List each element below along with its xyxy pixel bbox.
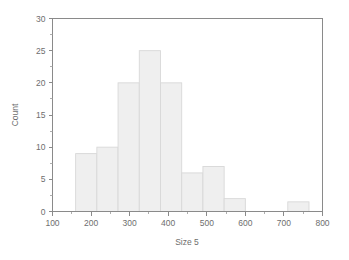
x-tick-label: 200: [84, 218, 98, 228]
y-axis-ticks: [49, 19, 53, 212]
y-tick-label: 20: [36, 78, 46, 88]
histogram-bar: [224, 199, 245, 212]
histogram-bar: [118, 83, 139, 212]
y-axis-tick-labels: 051015202530: [36, 14, 46, 217]
y-tick-label: 30: [36, 14, 46, 24]
histogram-bar: [139, 51, 160, 212]
x-tick-label: 600: [238, 218, 252, 228]
histogram-bar: [203, 166, 224, 211]
histogram-bar: [288, 202, 309, 212]
histogram-bar: [161, 83, 182, 212]
y-tick-label: 25: [36, 46, 46, 56]
x-tick-label: 700: [277, 218, 291, 228]
y-tick-label: 0: [41, 207, 46, 217]
y-axis-title: Count: [10, 103, 20, 126]
histogram-bars: [76, 51, 309, 212]
x-axis-tick-labels: 100200300400500600700800: [45, 218, 329, 228]
plot-canvas: 100200300400500600700800 051015202530 Si…: [0, 0, 349, 260]
x-axis-ticks: [53, 212, 323, 216]
y-tick-label: 10: [36, 142, 46, 152]
x-tick-label: 500: [200, 218, 214, 228]
y-tick-label: 5: [41, 174, 46, 184]
histogram-bar: [76, 154, 97, 212]
x-tick-label: 100: [45, 218, 59, 228]
histogram-bar: [182, 173, 203, 212]
y-tick-label: 15: [36, 110, 46, 120]
histogram-bar: [97, 147, 118, 211]
x-tick-label: 300: [123, 218, 137, 228]
x-axis-title: Size 5: [175, 237, 199, 247]
histogram-figure: 100200300400500600700800 051015202530 Si…: [0, 0, 349, 260]
x-tick-label: 800: [315, 218, 329, 228]
x-tick-label: 400: [161, 218, 175, 228]
